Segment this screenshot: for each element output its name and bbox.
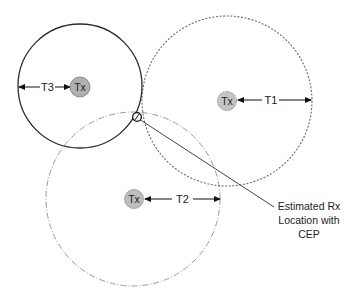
tx-label-t3: Tx — [74, 81, 86, 93]
trilateration-diagram: T3 Tx Tx T1 Tx T2 Estimated Rx Location … — [0, 0, 357, 294]
transmitter-t3: T3 Tx — [19, 77, 90, 97]
leader-line — [139, 119, 274, 207]
transmitter-t2: Tx T2 — [125, 190, 221, 209]
tx-label-t1: Tx — [221, 95, 233, 107]
transmitter-t1: Tx T1 — [218, 92, 312, 111]
annotation-line-2: Location with — [278, 214, 339, 226]
range-label-t1: T1 — [265, 94, 278, 106]
range-label-t2: T2 — [176, 193, 189, 205]
cep-marker — [133, 113, 142, 122]
range-label-t3: T3 — [41, 81, 54, 93]
annotation-line-3: CEP — [298, 228, 320, 240]
tx-label-t2: Tx — [128, 193, 140, 205]
diagram-canvas: T3 Tx Tx T1 Tx T2 Estimated Rx Location … — [0, 0, 357, 294]
annotation-line-1: Estimated Rx — [278, 200, 341, 212]
cep-annotation: Estimated Rx Location with CEP — [278, 200, 341, 240]
